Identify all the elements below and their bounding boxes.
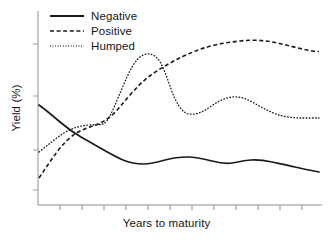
- legend-item-negative: Negative: [50, 9, 170, 22]
- y-axis-ticks: [33, 44, 38, 190]
- legend-label-positive: Positive: [91, 25, 132, 37]
- caption-partial: [0, 237, 333, 245]
- legend-swatch-dashed-icon: [50, 26, 84, 36]
- series-line-negative: [39, 105, 319, 172]
- legend-swatch-dotted-icon: [50, 41, 84, 51]
- yield-curve-figure: Negative Positive Humped Yield (%) Years…: [0, 0, 333, 245]
- legend-label-humped: Humped: [91, 40, 135, 52]
- chart-legend: Negative Positive Humped: [50, 9, 170, 54]
- legend-swatch-solid-icon: [50, 11, 84, 21]
- x-axis-title: Years to maturity: [0, 217, 333, 229]
- y-axis-title: Yield (%): [10, 68, 22, 148]
- x-axis-ticks: [60, 205, 302, 210]
- legend-item-positive: Positive: [50, 24, 170, 37]
- legend-item-humped: Humped: [50, 39, 170, 52]
- legend-label-negative: Negative: [91, 10, 137, 22]
